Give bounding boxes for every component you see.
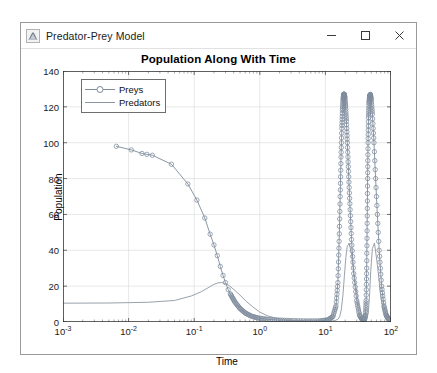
figure-canvas: Population Along With Time Population Ti… [21, 49, 416, 354]
chart-title: Population Along With Time [21, 53, 416, 65]
close-button[interactable] [382, 23, 416, 48]
x-axis-label: Time [63, 356, 391, 367]
y-tick-label: 140 [43, 66, 59, 77]
x-tick-label: 10-3 [55, 326, 72, 337]
legend-label-preys: Preys [119, 84, 143, 95]
y-tick-label: 20 [48, 281, 59, 292]
legend-sample-predators [85, 96, 115, 109]
y-tick-label: 40 [48, 245, 59, 256]
title-bar: Predator-Prey Model [21, 23, 416, 49]
maximize-button[interactable] [348, 23, 382, 48]
legend-sample-preys [85, 83, 115, 96]
y-tick-label: 120 [43, 101, 59, 112]
legend-item-preys: Preys [85, 83, 160, 96]
predator-prey-window: Predator-Prey Model Population Alo [20, 22, 417, 355]
matlab-membrane-icon [26, 29, 40, 43]
x-tick-label: 10-2 [120, 326, 137, 337]
plot-area: Population Time Preys Predators [63, 71, 391, 322]
x-tick-label: 100 [253, 326, 267, 337]
window-title: Predator-Prey Model [46, 30, 145, 42]
y-tick-label: 100 [43, 137, 59, 148]
x-tick-label: 10-1 [186, 326, 203, 337]
y-tick-label: 80 [48, 173, 59, 184]
legend-item-predators: Predators [85, 96, 160, 109]
y-tick-label: 60 [48, 209, 59, 220]
legend-label-predators: Predators [119, 97, 160, 108]
minimize-button[interactable] [314, 23, 348, 48]
x-tick-label: 102 [384, 326, 398, 337]
legend: Preys Predators [81, 79, 166, 113]
window-controls [314, 23, 416, 48]
x-tick-label: 101 [318, 326, 332, 337]
